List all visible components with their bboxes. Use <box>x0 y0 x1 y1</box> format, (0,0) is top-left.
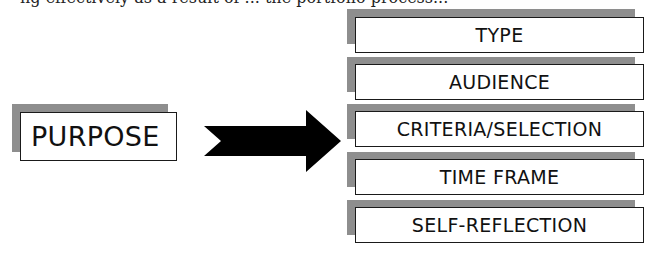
target-label: AUDIENCE <box>449 71 550 93</box>
target-box: SELF-REFLECTION <box>355 207 644 243</box>
purpose-box: PURPOSE <box>20 112 177 161</box>
target-box: TYPE <box>355 17 644 53</box>
target-box: TIME FRAME <box>355 159 644 195</box>
purpose-label: PURPOSE <box>31 121 160 152</box>
target-label: TIME FRAME <box>440 166 559 188</box>
right-arrow-icon <box>204 110 342 172</box>
target-box: AUDIENCE <box>355 64 644 100</box>
target-label: SELF-REFLECTION <box>412 214 587 236</box>
target-label: TYPE <box>476 24 524 46</box>
cropped-caption-text: ng effectively as a result of ... the po… <box>20 0 448 7</box>
target-label: CRITERIA/SELECTION <box>397 118 603 140</box>
target-box: CRITERIA/SELECTION <box>355 111 644 147</box>
